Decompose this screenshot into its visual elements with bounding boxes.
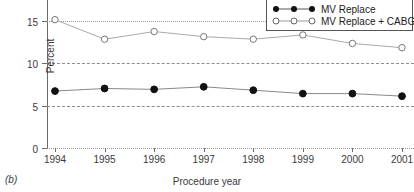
x-tick: [55, 148, 56, 152]
x-tick-label: 2001: [391, 154, 413, 165]
x-tick: [253, 148, 254, 152]
x-axis-title: Procedure year: [0, 176, 414, 187]
data-point: [101, 36, 107, 42]
x-tick-label: 1996: [143, 154, 165, 165]
x-tick: [303, 148, 304, 152]
legend-label-mv-replace: MV Replace: [321, 4, 375, 15]
x-tick-label: 1995: [93, 154, 115, 165]
legend: MV Replace MV Replace + CABG: [266, 0, 413, 31]
legend-label-mv-replace-cabg: MV Replace + CABG: [321, 16, 414, 27]
legend-item-mv-replace: MV Replace: [271, 3, 408, 15]
data-point: [52, 16, 58, 22]
data-point: [52, 88, 59, 95]
x-tick-label: 1994: [44, 154, 66, 165]
data-point: [299, 90, 306, 97]
x-tick-label: 1999: [292, 154, 314, 165]
y-axis-title: Percent: [45, 26, 56, 86]
panel-label: (b): [5, 174, 17, 185]
chart-figure: 05101520 1994199519961997199819992000200…: [0, 0, 414, 192]
filled-circle-icon: [271, 3, 317, 15]
y-tick-label: 15: [27, 16, 38, 27]
x-tick: [154, 148, 155, 152]
data-point: [151, 86, 158, 93]
y-tick-label: 0: [32, 144, 38, 155]
data-point: [201, 33, 207, 39]
data-point: [250, 36, 256, 42]
data-point: [101, 85, 108, 92]
data-point: [200, 83, 207, 90]
data-point: [349, 40, 355, 46]
data-point: [151, 28, 157, 34]
y-tick: 0: [42, 148, 47, 149]
data-point: [300, 32, 306, 38]
x-tick: [352, 148, 353, 152]
x-tick-label: 1998: [242, 154, 264, 165]
open-circle-icon: [271, 15, 317, 27]
x-tick: [402, 148, 403, 152]
data-point: [349, 90, 356, 97]
data-point: [250, 87, 257, 94]
x-tick: [105, 148, 106, 152]
legend-item-mv-replace-cabg: MV Replace + CABG: [271, 15, 408, 27]
y-tick-label: 10: [27, 59, 38, 70]
gridline: [47, 148, 414, 149]
x-tick: [204, 148, 205, 152]
y-tick-label: 5: [32, 101, 38, 112]
data-point: [399, 93, 406, 100]
x-tick-label: 2000: [341, 154, 363, 165]
x-tick-label: 1997: [193, 154, 215, 165]
data-point: [399, 45, 405, 51]
